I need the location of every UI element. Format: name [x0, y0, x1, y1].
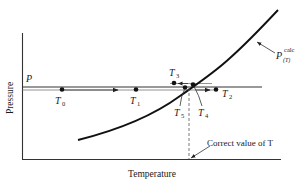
- leader-t4: [194, 87, 202, 107]
- leader-t5: [180, 90, 185, 107]
- svg-text:1: 1: [137, 100, 140, 107]
- svg-text:4: 4: [205, 112, 209, 119]
- y-axis-label: Pressure: [5, 82, 15, 114]
- svg-text:T: T: [55, 95, 62, 106]
- point-t1: [134, 87, 139, 92]
- label-t4: T 4: [198, 107, 209, 119]
- point-t0: [60, 87, 65, 92]
- label-t1: T 1: [130, 95, 140, 107]
- svg-text:(T): (T): [283, 57, 290, 64]
- svg-text:T: T: [169, 67, 176, 78]
- svg-text:0: 0: [62, 100, 65, 107]
- iteration-diagram: P P calc (T) T 0 T 1 T 2: [0, 0, 303, 183]
- svg-text:T: T: [174, 107, 181, 118]
- label-t5: T 5: [174, 107, 184, 119]
- label-t0: T 0: [55, 95, 65, 107]
- svg-text:5: 5: [181, 112, 184, 119]
- point-t2: [214, 87, 219, 92]
- pressure-level-label: P: [25, 73, 32, 84]
- point-t4: [191, 82, 196, 87]
- diagram-canvas: P P calc (T) T 0 T 1 T 2: [0, 0, 303, 183]
- correct-value-label: Correct value of T: [207, 138, 274, 148]
- label-t3: T 3: [169, 67, 179, 79]
- curve-label: P calc (T): [275, 46, 295, 64]
- label-t2: T 2: [222, 88, 232, 100]
- svg-text:2: 2: [229, 93, 232, 100]
- x-axis-label: Temperature: [128, 169, 176, 179]
- svg-text:T: T: [222, 88, 229, 99]
- curve-label-arrow: [257, 42, 275, 53]
- svg-text:T: T: [198, 107, 205, 118]
- svg-text:3: 3: [176, 72, 179, 79]
- point-t3: [172, 81, 177, 86]
- point-t5: [183, 85, 188, 90]
- svg-text:P: P: [275, 50, 282, 61]
- svg-text:calc: calc: [284, 46, 295, 53]
- svg-text:T: T: [130, 95, 137, 106]
